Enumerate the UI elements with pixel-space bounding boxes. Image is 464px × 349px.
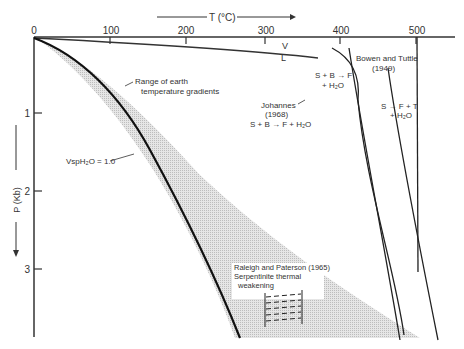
- vl-curve: [34, 38, 318, 58]
- x-axis-title: T (°C): [209, 12, 236, 23]
- svg-text:1: 1: [24, 108, 30, 119]
- svg-text:3: 3: [24, 264, 30, 275]
- arrow-down-icon: [13, 250, 19, 257]
- label-v: V: [282, 41, 288, 51]
- svg-text:400: 400: [333, 25, 350, 36]
- arrow-right-icon: [290, 14, 296, 20]
- bowen-label: Bowen and Tuttle: [356, 54, 418, 63]
- y-ticks: [34, 113, 42, 269]
- svg-text:2: 2: [24, 186, 30, 197]
- svg-text:300: 300: [258, 25, 275, 36]
- svg-text:200: 200: [178, 25, 195, 36]
- range-pointer: [125, 82, 133, 86]
- raleigh-label-2: Serpentinite thermal: [234, 272, 301, 281]
- bowen-year: (1949): [372, 64, 395, 73]
- svg-text:0: 0: [31, 25, 37, 36]
- svg-text:100: 100: [103, 25, 120, 36]
- raleigh-label-3: weakening: [237, 281, 274, 290]
- sft-label: S → F + T: [381, 102, 418, 111]
- phase-diagram: 0 100 200 300 400 500 T (°C) 1 2 3 P (Kb…: [0, 0, 464, 349]
- sft-label-2: + H₂O: [390, 111, 412, 120]
- range-label-line1: Range of earth: [135, 77, 188, 86]
- y-tick-labels: 1 2 3: [24, 108, 30, 275]
- johannes-label: Johannes: [261, 101, 296, 110]
- temperature-gradient-region: [34, 37, 420, 338]
- johannes-reaction: S + B → F + H₂O: [250, 120, 311, 129]
- johannes-curve: [349, 48, 400, 340]
- y-axis-title: P (Kb): [12, 187, 22, 212]
- x-ticks: [110, 37, 416, 44]
- range-label-line2: temperature gradients: [141, 87, 219, 96]
- svg-text:500: 500: [409, 25, 426, 36]
- sbf-label: S + B → F: [315, 71, 352, 80]
- x-tick-labels: 0 100 200 300 400 500: [31, 25, 426, 36]
- raleigh-label: Raleigh and Paterson (1965): [234, 263, 330, 272]
- johannes-pointer: [298, 100, 305, 104]
- johannes-year: (1968): [265, 110, 288, 119]
- sbf-label-2: + H₂O: [322, 81, 344, 90]
- label-l: L: [281, 53, 286, 63]
- vsp-label: VspH₂O = 1.0: [66, 157, 116, 166]
